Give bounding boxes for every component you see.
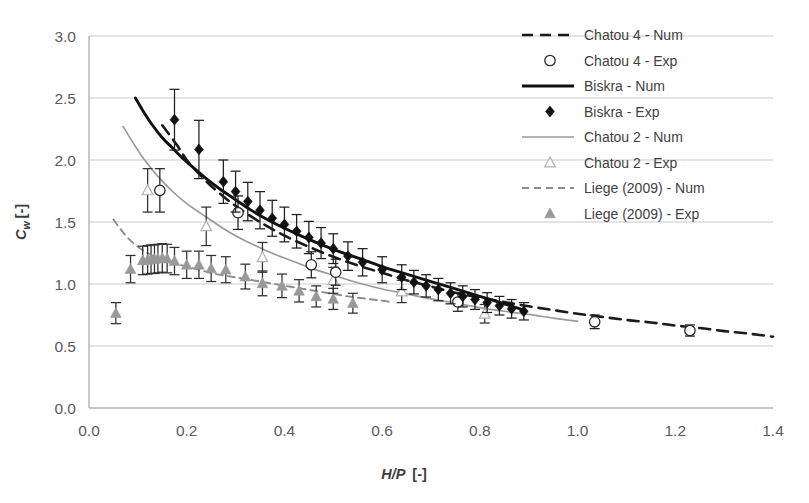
data-point [589,317,599,327]
x-axis-title-text: H/P [-] [381,466,427,482]
legend-item-label: Chatou 2 - Num [584,129,683,145]
legend-item-label: Chatou 2 - Exp [584,155,678,171]
marker-open-circle [306,260,316,270]
data-point [331,267,341,277]
legend-item-label: Liege (2009) - Num [584,180,705,196]
chart-figure: 0.00.51.01.52.02.53.0 0.00.20.40.60.81.0… [0,0,809,503]
data-point [685,325,695,335]
chart-background [0,0,809,503]
marker-open-circle [685,325,695,335]
y-tick-label: 2.0 [54,152,76,169]
marker-open-circle [331,267,341,277]
legend-item-label: Biskra - Num [584,78,665,94]
y-tick-label: 3.0 [54,28,76,45]
y-tick-label: 0.0 [54,400,76,417]
y-tick-label: 2.5 [54,90,76,107]
legend-item-label: Biskra - Exp [584,104,660,120]
wp-discharge-coefficient-chart: 0.00.51.01.52.02.53.0 0.00.20.40.60.81.0… [0,0,809,503]
x-tick-label: 1.2 [665,422,687,439]
data-point [306,260,316,270]
marker-open-circle [589,317,599,327]
x-axis-title: H/P [-] [381,466,427,482]
x-tick-label: 1.4 [762,422,784,439]
data-point [155,185,165,195]
marker-open-circle [155,185,165,195]
marker-open-circle [545,55,555,65]
legend-item-label: Chatou 4 - Exp [584,53,678,69]
y-tick-label: 0.5 [54,338,76,355]
x-tick-label: 0.8 [469,422,491,439]
y-tick-label: 1.0 [54,276,76,293]
x-tick-label: 0.4 [274,422,296,439]
x-tick-label: 0.6 [371,422,393,439]
y-tick-label: 1.5 [54,214,76,231]
legend-item-label: Liege (2009) - Exp [584,206,699,222]
legend-item-label: Chatou 4 - Num [584,27,683,43]
x-tick-label: 0.2 [176,422,198,439]
x-tick-label: 1.0 [567,422,589,439]
x-tick-label: 0.0 [78,422,100,439]
